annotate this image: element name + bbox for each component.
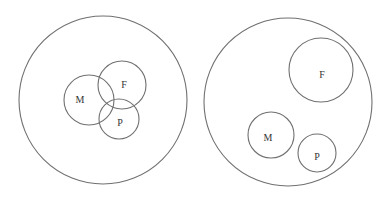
diagram-overlapping: M F P xyxy=(19,16,187,184)
set-circle-m xyxy=(64,75,114,125)
universe-circle xyxy=(204,18,372,186)
set-label-p: P xyxy=(117,117,123,128)
set-label-m: M xyxy=(264,132,273,143)
set-label-m: M xyxy=(76,94,85,105)
venn-diagrams: M F P F M P xyxy=(0,0,385,204)
set-label-p: P xyxy=(314,151,320,162)
set-label-f: F xyxy=(121,79,127,90)
set-label-f: F xyxy=(319,69,325,80)
diagram-disjoint: F M P xyxy=(204,18,372,186)
